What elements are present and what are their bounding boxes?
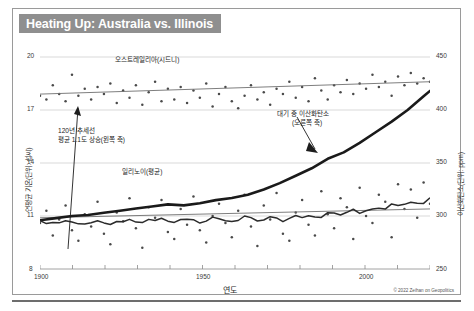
data-point [429, 202, 430, 205]
data-point [160, 100, 163, 103]
data-point [218, 93, 221, 96]
data-point [192, 195, 195, 198]
data-point [109, 82, 112, 85]
data-point [237, 107, 240, 110]
x-tick-1900: 1900 [34, 273, 48, 280]
data-point [135, 227, 138, 230]
data-point [115, 102, 118, 105]
data-point [365, 88, 368, 91]
data-point [128, 96, 131, 99]
data-point [314, 234, 317, 237]
data-point [135, 84, 138, 87]
right-tick-450: 450 [436, 52, 447, 59]
data-point [390, 236, 393, 239]
data-point [45, 98, 48, 101]
data-point [231, 100, 234, 103]
data-point [147, 91, 150, 94]
data-point [346, 206, 349, 209]
data-point [378, 194, 381, 197]
data-point [199, 229, 202, 232]
data-point [71, 73, 74, 76]
annotation-australia: 오스트레일리아(시드니) [115, 56, 179, 65]
data-point [352, 238, 355, 241]
right-tick-250: 250 [436, 265, 447, 272]
data-point [103, 93, 106, 96]
annotation-trend-line2: 평균 1.1도 상승(왼쪽 축) [58, 136, 125, 145]
series-illinois-scatter [40, 181, 430, 249]
data-point [211, 105, 214, 108]
data-point [90, 98, 93, 101]
data-point [167, 231, 170, 234]
data-point [288, 239, 291, 242]
data-point [384, 80, 387, 83]
left-tick-8: 8 [29, 265, 33, 272]
data-point [256, 98, 259, 101]
annotation-illinois: 일리노이(평균) [122, 168, 162, 177]
annotation-leaders [68, 106, 318, 249]
chart-title-banner: Heating Up: Australia vs. Illinois [19, 14, 221, 33]
data-point [224, 222, 227, 225]
data-point [307, 100, 310, 103]
x-tick-2000: 2000 [359, 273, 373, 280]
data-point [301, 199, 304, 202]
data-point [371, 73, 374, 76]
data-point [141, 247, 144, 250]
data-point [186, 224, 189, 227]
x-axis-title: 연도 [223, 284, 237, 295]
chart-screenshot: Heating Up: Australia vs. Illinois [0, 0, 474, 311]
data-point [64, 204, 67, 207]
data-point [103, 232, 106, 235]
annotation-co2-line1: 대기 중 이산화탄소 [277, 110, 329, 119]
data-point [96, 86, 99, 89]
right-tick-400: 400 [436, 105, 447, 112]
data-point [275, 88, 278, 91]
data-point [333, 227, 336, 230]
data-point [307, 224, 310, 227]
data-point [339, 91, 342, 94]
data-point [77, 95, 80, 98]
data-point [179, 208, 182, 211]
data-point [269, 218, 272, 221]
data-point [173, 238, 176, 241]
bottom-divider [12, 300, 461, 302]
series-australia-trendline [40, 82, 430, 94]
data-point [320, 190, 323, 193]
data-point [237, 209, 240, 212]
data-point [416, 217, 419, 220]
left-tick-11: 11 [27, 211, 34, 218]
page-title: Heating Up: Australia vs. Illinois [26, 17, 213, 31]
data-point [109, 243, 112, 246]
data-point [71, 229, 74, 232]
data-point [250, 84, 253, 87]
data-point [314, 77, 317, 80]
annotation-trend-line1: 120년 추세선 [58, 127, 95, 136]
right-tick-350: 350 [436, 158, 447, 165]
data-point [128, 197, 131, 200]
data-point [96, 201, 99, 204]
data-point [326, 98, 329, 101]
data-point [269, 103, 272, 106]
data-point [154, 80, 157, 83]
data-point [403, 84, 406, 87]
data-point [90, 225, 93, 228]
data-point [141, 103, 144, 106]
data-point [64, 100, 67, 103]
data-point [160, 199, 163, 202]
data-point [422, 77, 425, 80]
data-point [397, 75, 400, 78]
data-point [231, 236, 234, 239]
data-point [410, 72, 413, 75]
data-point [173, 98, 176, 101]
data-point [52, 234, 55, 237]
data-point [77, 239, 80, 242]
data-point [371, 222, 374, 225]
data-point [288, 80, 291, 83]
data-point [294, 96, 297, 99]
data-point [384, 201, 387, 204]
data-point [352, 93, 355, 96]
data-point [263, 204, 266, 207]
data-point [256, 245, 259, 248]
series-australia-scatter [40, 72, 430, 110]
data-point [40, 95, 41, 98]
data-point [263, 91, 266, 94]
